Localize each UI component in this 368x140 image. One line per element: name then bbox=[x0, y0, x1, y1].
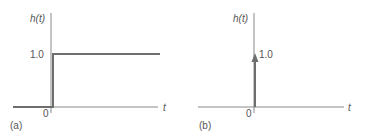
y-tick-label: 1.0 bbox=[30, 49, 44, 60]
y-axis-label: h(t) bbox=[233, 13, 248, 24]
y-axis-label: h(t) bbox=[30, 13, 45, 24]
figure-canvas: h(t) 1.0 0 t (a) h(t) 1.0 0 t (b) bbox=[0, 0, 368, 140]
step-signal bbox=[13, 54, 160, 107]
panel-tag: (b) bbox=[199, 120, 211, 131]
x-axis-label: t bbox=[163, 102, 167, 113]
impulse-height-label: 1.0 bbox=[259, 49, 273, 60]
origin-label: 0 bbox=[246, 108, 252, 119]
panel-a: h(t) 1.0 0 t (a) bbox=[10, 13, 167, 131]
arrow-head-icon bbox=[252, 53, 259, 62]
panel-tag: (a) bbox=[10, 120, 22, 131]
origin-label: 0 bbox=[43, 108, 49, 119]
panel-b: h(t) 1.0 0 t (b) bbox=[198, 13, 352, 131]
x-axis-label: t bbox=[348, 102, 352, 113]
